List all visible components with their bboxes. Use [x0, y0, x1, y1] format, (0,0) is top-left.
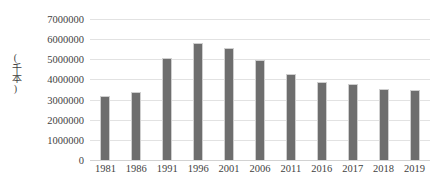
bar[interactable] — [100, 96, 110, 160]
bar-chart: (千本) 01000000200000030000004000000500000… — [0, 0, 442, 192]
y-axis-tick-label: 7000000 — [47, 14, 84, 25]
x-axis-tick-labels: 1981198619911996200120062011201620172018… — [90, 163, 430, 174]
bar[interactable] — [162, 58, 172, 160]
x-axis-tick-label: 2016 — [306, 163, 337, 174]
x-axis-tick-label: 2019 — [399, 163, 430, 174]
y-axis-tick-label: 5000000 — [47, 54, 84, 65]
y-axis-tick-label: 0 — [79, 155, 84, 166]
bar[interactable] — [348, 84, 358, 160]
plot-area — [90, 19, 430, 160]
y-axis-tick-label: 2000000 — [47, 114, 84, 125]
y-axis-tick-label: 4000000 — [47, 74, 84, 85]
bar[interactable] — [286, 74, 296, 160]
bars-layer — [90, 19, 430, 160]
x-axis-tick-label: 1991 — [152, 163, 183, 174]
bar[interactable] — [410, 90, 420, 160]
x-axis-tick-label: 2018 — [368, 163, 399, 174]
bar-slot — [337, 19, 368, 160]
y-axis-tick-label: 1000000 — [47, 134, 84, 145]
x-axis-tick-label: 1996 — [183, 163, 214, 174]
x-axis-tick-label: 1981 — [90, 163, 121, 174]
bar-slot — [306, 19, 337, 160]
x-axis-tick-label: 2001 — [214, 163, 245, 174]
bar[interactable] — [224, 48, 234, 160]
x-axis-tick-label: 2006 — [245, 163, 276, 174]
bar-slot — [214, 19, 245, 160]
bar[interactable] — [193, 43, 203, 160]
y-axis-tick-label: 6000000 — [47, 34, 84, 45]
bar[interactable] — [131, 92, 141, 160]
x-axis-tick-label: 1986 — [121, 163, 152, 174]
bar-slot — [121, 19, 152, 160]
axis-baseline — [90, 160, 430, 161]
y-axis-title: (千本) — [4, 52, 20, 94]
bar-slot — [368, 19, 399, 160]
x-axis-tick-label: 2017 — [337, 163, 368, 174]
x-axis-tick-label: 2011 — [275, 163, 306, 174]
bar-slot — [399, 19, 430, 160]
bar-slot — [245, 19, 276, 160]
y-axis-tick-labels: 0100000020000003000000400000050000006000… — [20, 12, 88, 160]
bar-slot — [275, 19, 306, 160]
bar[interactable] — [255, 60, 265, 160]
bar-slot — [152, 19, 183, 160]
bar[interactable] — [379, 89, 389, 160]
bar-slot — [90, 19, 121, 160]
y-axis-tick-label: 3000000 — [47, 94, 84, 105]
bar[interactable] — [317, 82, 327, 160]
bar-slot — [183, 19, 214, 160]
